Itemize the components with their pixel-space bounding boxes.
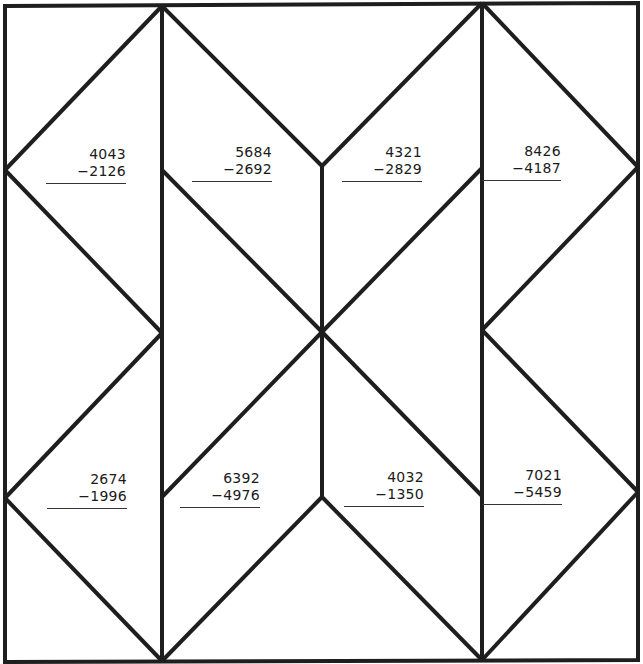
diag xyxy=(482,167,638,330)
subtrahend: −2829 xyxy=(342,161,422,182)
subtraction-problem-3: 4321 −2829 xyxy=(342,144,422,182)
geometric-pattern-grid xyxy=(0,0,643,664)
diag xyxy=(5,170,162,333)
subtrahend: −4976 xyxy=(180,487,260,508)
subtrahend: −4187 xyxy=(481,160,561,181)
minuend: 7021 xyxy=(482,467,562,484)
minuend: 2674 xyxy=(47,471,127,488)
diag xyxy=(162,170,322,332)
minuend: 5684 xyxy=(192,144,272,161)
diag xyxy=(482,492,638,660)
subtrahend: −2126 xyxy=(46,163,126,184)
subtraction-problem-8: 7021 −5459 xyxy=(482,467,562,505)
diag xyxy=(162,497,322,661)
minuend: 4321 xyxy=(342,144,422,161)
subtraction-problem-1: 4043 −2126 xyxy=(46,146,126,184)
subtrahend: −5459 xyxy=(482,484,562,505)
diag xyxy=(5,498,162,661)
subtraction-problem-7: 4032 −1350 xyxy=(344,469,424,507)
subtraction-problem-2: 5684 −2692 xyxy=(192,144,272,182)
diag xyxy=(322,497,482,660)
minuend: 6392 xyxy=(180,470,260,487)
subtraction-problem-4: 8426 −4187 xyxy=(481,143,561,181)
subtraction-problem-5: 2674 −1996 xyxy=(47,471,127,509)
minuend: 4032 xyxy=(344,469,424,486)
subtrahend: −2692 xyxy=(192,161,272,182)
diag xyxy=(322,3,482,166)
subtraction-problem-6: 6392 −4976 xyxy=(180,470,260,508)
diag xyxy=(162,6,322,166)
subtrahend: −1350 xyxy=(344,486,424,507)
minuend: 8426 xyxy=(481,143,561,160)
subtrahend: −1996 xyxy=(47,488,127,509)
diag xyxy=(322,168,482,332)
minuend: 4043 xyxy=(46,146,126,163)
